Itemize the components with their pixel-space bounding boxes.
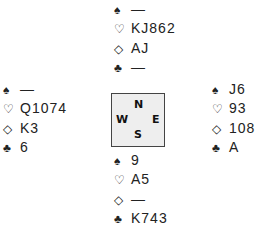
spade-icon: ♠ (212, 81, 229, 100)
south-clubs: K743 (131, 209, 168, 228)
west-clubs: 6 (20, 138, 29, 157)
south-clubs-row: ♣K743 (114, 209, 168, 228)
west-hand: ♠— ♡Q1074 ◇K3 ♣6 (3, 80, 67, 157)
heart-icon: ♡ (114, 171, 131, 190)
spade-icon: ♠ (3, 81, 20, 100)
west-spades-row: ♠— (3, 80, 67, 99)
west-hearts: Q1074 (20, 99, 67, 118)
club-icon: ♣ (212, 139, 229, 158)
west-diamonds: K3 (20, 119, 39, 138)
spade-icon: ♠ (114, 1, 131, 20)
diamond-icon: ◇ (114, 40, 131, 59)
club-icon: ♣ (114, 210, 131, 229)
east-diamonds-row: ◇108 (212, 119, 255, 138)
east-hand: ♠J6 ♡93 ◇108 ♣A (212, 80, 255, 157)
compass-south-label: S (134, 128, 142, 141)
diamond-icon: ◇ (212, 120, 229, 139)
north-diamonds: AJ (131, 39, 149, 58)
north-clubs-row: ♣— (114, 58, 176, 77)
north-hearts-row: ♡KJ862 (114, 19, 176, 38)
west-spades: — (20, 80, 35, 99)
south-spades-row: ♠9 (114, 151, 168, 170)
south-spades: 9 (131, 151, 140, 170)
east-clubs-row: ♣A (212, 138, 255, 157)
west-clubs-row: ♣6 (3, 138, 67, 157)
club-icon: ♣ (114, 59, 131, 78)
north-clubs: — (131, 58, 146, 77)
south-diamonds: — (131, 190, 146, 209)
club-icon: ♣ (3, 139, 20, 158)
north-hand: ♠— ♡KJ862 ◇AJ ♣— (114, 0, 176, 77)
compass-box: N W E S (111, 93, 165, 147)
heart-icon: ♡ (3, 100, 20, 119)
compass-east-label: E (152, 113, 160, 126)
east-hearts: 93 (229, 99, 247, 118)
south-hearts: A5 (131, 170, 150, 189)
north-hearts: KJ862 (131, 19, 176, 38)
east-spades: J6 (229, 80, 246, 99)
south-diamonds-row: ◇— (114, 190, 168, 209)
diamond-icon: ◇ (3, 120, 20, 139)
east-clubs: A (229, 138, 239, 157)
west-diamonds-row: ◇K3 (3, 119, 67, 138)
diamond-icon: ◇ (114, 191, 131, 210)
south-hearts-row: ♡A5 (114, 170, 168, 189)
heart-icon: ♡ (212, 100, 229, 119)
east-hearts-row: ♡93 (212, 99, 255, 118)
heart-icon: ♡ (114, 20, 131, 39)
east-spades-row: ♠J6 (212, 80, 255, 99)
south-hand: ♠9 ♡A5 ◇— ♣K743 (114, 151, 168, 228)
north-diamonds-row: ◇AJ (114, 39, 176, 58)
spade-icon: ♠ (114, 152, 131, 171)
compass-north-label: N (134, 98, 143, 111)
north-spades: — (131, 0, 146, 19)
north-spades-row: ♠— (114, 0, 176, 19)
west-hearts-row: ♡Q1074 (3, 99, 67, 118)
east-diamonds: 108 (229, 119, 255, 138)
compass-west-label: W (116, 113, 128, 126)
